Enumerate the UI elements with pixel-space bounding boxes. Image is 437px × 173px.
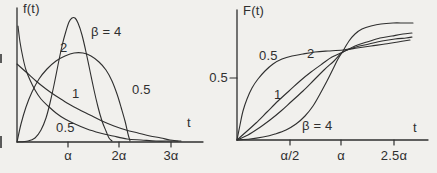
right_chart-y-tick-label-0: 0.5 (202, 71, 228, 84)
right_chart-x-tick-label-1: α (337, 149, 345, 162)
left_chart-x-tick-label-0: α (64, 149, 72, 162)
weibull-distribution-figure: α2α3αf(t)tβ = 4210.50.5α/2α2.5α0.5F(t)t0… (0, 0, 437, 173)
left-y-axis-title: f(t) (23, 2, 40, 15)
left-curve-label-beta05-b: 0.5 (132, 83, 151, 96)
left-curve-label-beta4: β = 4 (91, 25, 122, 38)
right-curve-label-beta2: 2 (307, 47, 314, 60)
right_chart-x-tick-label-2: 2.5α (381, 149, 407, 162)
right-y-axis-title: F(t) (243, 4, 264, 17)
scan-artifact-1 (0, 136, 2, 148)
right-curve-label-beta4: β = 4 (302, 119, 333, 132)
left-x-axis-title: t (187, 116, 191, 129)
left_chart-x-tick-label-1: 2α (111, 149, 126, 162)
left_chart-x-tick-label-2: 3α (163, 149, 178, 162)
right-x-axis-title: t (413, 121, 417, 134)
left-curve-label-beta05-a: 0.5 (56, 121, 75, 134)
right_chart-x-tick-label-0: α/2 (281, 149, 300, 162)
left-curve-label-beta2: 2 (60, 41, 67, 54)
scan-artifact-0 (0, 54, 2, 63)
right-curve-label-beta1: 1 (274, 88, 281, 101)
left_chart-curve-pdf-beta-0.5 (18, 26, 181, 141)
left-curve-label-beta1: 1 (72, 87, 79, 100)
right-curve-label-beta05: 0.5 (259, 49, 278, 62)
